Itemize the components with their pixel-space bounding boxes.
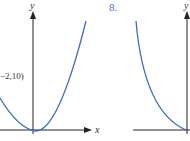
left-x-axis-arrow-icon	[84, 127, 92, 133]
left-x-axis-label: x	[94, 124, 100, 135]
figure-canvas: x y (−2,10) 8. y	[0, 0, 190, 141]
left-y-axis-label: y	[29, 0, 35, 11]
left-graph: x y (−2,10)	[0, 0, 100, 135]
right-y-axis-label: y	[183, 0, 189, 11]
right-y-axis-arrow-icon	[184, 11, 190, 19]
right-curve	[136, 21, 186, 130]
right-graph: 8. y	[109, 0, 190, 134]
point-label: (−2,10)	[0, 71, 24, 81]
problem-number: 8.	[109, 1, 118, 13]
left-y-axis-arrow-icon	[30, 11, 36, 19]
